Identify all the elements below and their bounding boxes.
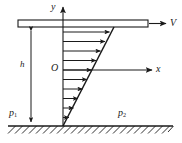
pressure-left-label: p1 bbox=[9, 108, 17, 119]
couette-flow-figure: y V O x h p1 p2 bbox=[0, 0, 182, 143]
figure-canvas bbox=[0, 0, 182, 143]
origin-label: O bbox=[51, 63, 58, 73]
hatched-ground bbox=[8, 126, 174, 134]
pressure-right-label: p2 bbox=[118, 108, 126, 119]
y-axis-label: y bbox=[51, 2, 55, 12]
plate-velocity-label: V bbox=[170, 18, 176, 28]
x-axis-label: x bbox=[156, 64, 160, 74]
velocity-profile-arrows bbox=[63, 32, 110, 118]
gap-height-label: h bbox=[20, 60, 25, 69]
pressure-left-subscript: 1 bbox=[14, 111, 17, 118]
pressure-right-subscript: 2 bbox=[123, 111, 126, 118]
moving-plate bbox=[18, 20, 148, 27]
